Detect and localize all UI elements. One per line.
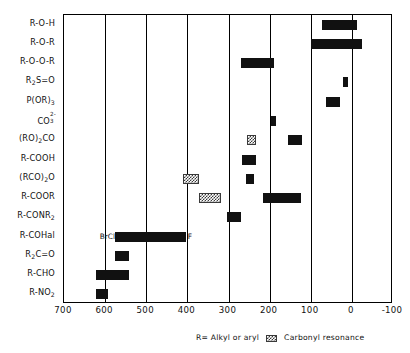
x-tick-label: 100 — [301, 305, 318, 315]
category-label: R-NO2 — [0, 288, 55, 297]
chart-legend: R= Alkyl or aryl Carbonyl resonance — [196, 331, 364, 345]
x-tick-label: -100 — [382, 305, 403, 315]
range-bar — [96, 270, 129, 280]
chemical-shift-chart: R-O-HR-O-RR-O-O-RR2S=OP(OR)3CO2-3(RO)2CO… — [0, 0, 410, 353]
range-bar — [343, 77, 348, 87]
category-label: (RCO)2O — [0, 173, 55, 182]
range-bar — [263, 193, 301, 203]
category-label: R-O-H — [0, 19, 55, 28]
range-bar-carbonyl — [183, 174, 199, 184]
range-bar-carbonyl — [247, 135, 256, 145]
range-bar — [115, 232, 186, 242]
range-bar — [115, 251, 129, 261]
x-tick-label: 600 — [95, 305, 112, 315]
range-bar — [227, 212, 241, 222]
range-bar — [322, 20, 357, 30]
category-label: R-CONR2 — [0, 211, 55, 220]
gridline — [311, 15, 312, 302]
category-label: R2C=O — [0, 250, 55, 259]
range-bar — [242, 155, 257, 165]
range-bar — [246, 174, 254, 184]
range-bar — [96, 289, 108, 299]
legend-r-definition: R= Alkyl or aryl — [196, 333, 259, 343]
category-label: R-COHal — [0, 231, 55, 240]
range-bar — [288, 135, 302, 145]
category-axis-labels: R-O-HR-O-RR-O-O-RR2S=OP(OR)3CO2-3(RO)2CO… — [0, 14, 58, 303]
gridline — [146, 15, 147, 302]
range-bar-carbonyl — [199, 193, 221, 203]
range-bar — [326, 97, 340, 107]
range-bar — [271, 116, 276, 126]
plot-area: BrClF — [63, 14, 392, 303]
range-bar — [311, 39, 362, 49]
category-label: R-O-R — [0, 38, 55, 47]
x-tick-label: 0 — [348, 305, 354, 315]
category-label: R-COOR — [0, 192, 55, 201]
range-bar — [241, 58, 274, 68]
category-label: R-COOH — [0, 154, 55, 163]
category-label: R-O-O-R — [0, 57, 55, 66]
x-tick-label: 200 — [260, 305, 277, 315]
gridline — [105, 15, 106, 302]
x-axis-ticks: 7006005004003002001000-100 — [63, 303, 392, 319]
category-label: P(OR)3 — [0, 96, 55, 105]
gridline — [352, 15, 353, 302]
gridline — [229, 15, 230, 302]
category-label: R-CHO — [0, 269, 55, 278]
x-tick-label: 700 — [54, 305, 71, 315]
x-tick-label: 500 — [137, 305, 154, 315]
bar-annotation-f: F — [188, 232, 192, 241]
carbonyl-resonance-swatch-icon — [266, 335, 277, 342]
legend-carbonyl-label: Carbonyl resonance — [284, 333, 364, 343]
x-tick-label: 300 — [219, 305, 236, 315]
category-label: R2S=O — [0, 76, 55, 85]
category-label: (RO)2CO — [0, 134, 55, 143]
bar-annotation-brcl: BrCl — [64, 232, 115, 241]
category-label: CO2-3 — [0, 115, 55, 126]
x-tick-label: 400 — [178, 305, 195, 315]
gridline — [187, 15, 188, 302]
